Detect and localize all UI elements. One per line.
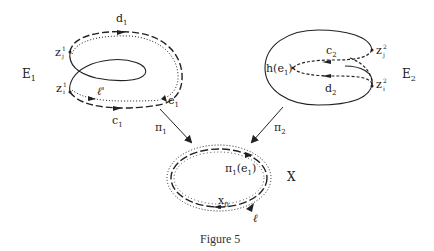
space-x: π1(e1) X x0 ℓ	[167, 145, 296, 225]
label-zj1: z	[55, 46, 61, 59]
path-d2-cross	[350, 58, 372, 86]
label-pi1: π1	[155, 121, 167, 136]
solid-loop-e1	[70, 52, 146, 92]
label-zi1: z	[56, 82, 62, 95]
label-c1: c1	[112, 114, 123, 129]
label-e1-edge: e1	[168, 94, 179, 109]
path-d1	[70, 32, 182, 104]
label-x: X	[287, 170, 296, 184]
label-zi1-sub: i	[63, 88, 65, 95]
label-c2: c2	[326, 44, 337, 59]
arrow-top-icon	[245, 152, 253, 158]
label-zj2-sub: j	[382, 51, 385, 59]
covering-diagram: E1 d1 c1 z 1 j z 1 i ℓ' e1	[0, 0, 434, 251]
label-e1: E1	[22, 67, 36, 83]
label-zj1-sup: 1	[62, 45, 66, 52]
label-e2: E2	[402, 67, 416, 83]
label-zi2: z	[376, 78, 382, 91]
arrow-d2-icon	[322, 74, 331, 78]
space-e2: E2 c2 d2 h(e1) z 2 j z 2 i	[265, 30, 416, 105]
label-zj2-sup: 2	[383, 43, 387, 50]
label-zi1-sup: 1	[63, 81, 67, 88]
path-c1	[70, 92, 163, 108]
label-zi2-sup: 2	[383, 77, 387, 84]
label-d1: d1	[116, 12, 128, 27]
space-e1: E1 d1 c1 z 1 j z 1 i ℓ' e1	[22, 12, 182, 129]
arrow-d1-icon	[117, 30, 126, 35]
label-d2: d2	[325, 82, 337, 97]
label-zj2: z	[376, 44, 382, 57]
label-l-prime: ℓ'	[97, 85, 105, 98]
figure-caption: Figure 5	[200, 232, 240, 246]
label-h-e1: h(e1)	[266, 62, 293, 77]
arrow-l-icon	[246, 203, 254, 212]
label-zi2-sub: i	[383, 85, 385, 92]
path-dotted-top	[72, 36, 178, 100]
arrow-e1-icon	[161, 95, 167, 102]
label-x0: x0	[218, 194, 229, 209]
projection-maps: π1 π2	[155, 107, 286, 142]
arrow-pi1	[160, 109, 191, 142]
path-d2	[293, 68, 372, 84]
point-zj1	[69, 51, 72, 54]
point-zi1	[69, 91, 72, 94]
point-zj2	[371, 49, 374, 52]
label-zj1-sub: j	[61, 52, 64, 60]
label-l: ℓ	[253, 212, 258, 225]
label-pi2: π2	[274, 121, 286, 136]
point-zi2	[371, 85, 374, 88]
label-pi1-e1: π1(e1)	[225, 162, 256, 177]
path-l-prime	[72, 90, 160, 101]
